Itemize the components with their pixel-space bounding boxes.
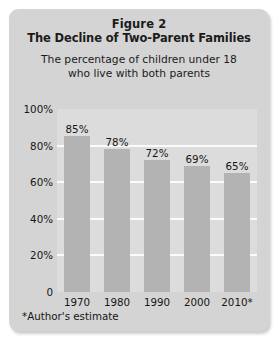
bar-value-label: 65% [217,160,257,172]
y-axis-tick-label: 20% [9,250,53,260]
bar [184,166,210,292]
y-axis-tick-label: 40% [9,214,53,224]
figure-subtitle-line-1: The percentage of children under 18 [9,53,269,66]
bar-value-label: 85% [57,123,97,135]
y-axis-tick-label: 0 [9,287,53,297]
y-axis-tick-label: 100% [9,104,53,114]
bar [144,160,170,292]
bar [104,149,130,292]
bars-layer [57,109,257,292]
footnote: *Author's estimate [22,310,119,322]
y-axis-tick-label: 80% [9,140,53,150]
figure-number: Figure 2 [9,17,269,31]
bar [64,136,90,292]
bar-value-label: 69% [177,153,217,165]
bar-value-label: 78% [97,136,137,148]
bar-chart: 100%80%60%40%20%0 85%78%72%69%65% 197019… [57,92,257,293]
x-axis-tick-label: 2010* [214,296,260,308]
bar [224,173,250,292]
figure-card: Figure 2 The Decline of Two-Parent Famil… [9,9,269,331]
figure-subtitle-line-2: who live with both parents [9,67,269,80]
bar-value-label: 72% [137,147,177,159]
y-axis-tick-label: 60% [9,177,53,187]
figure-title: The Decline of Two-Parent Families [9,31,269,45]
